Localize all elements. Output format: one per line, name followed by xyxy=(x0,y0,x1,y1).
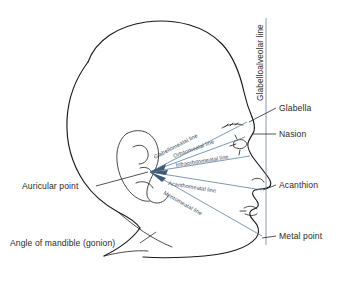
eye-crease xyxy=(230,144,236,146)
ear-concha xyxy=(133,145,148,164)
mentomeatal-line xyxy=(150,172,262,236)
leader-acanthion xyxy=(263,185,276,190)
label-metal-point: Metal point xyxy=(279,231,323,241)
head-outline-group xyxy=(67,21,271,258)
cranium-outline xyxy=(88,21,252,117)
label-nasion: Nasion xyxy=(279,129,306,139)
eye-lash-upper xyxy=(235,135,237,139)
occiput-neck-outline xyxy=(67,62,140,228)
leader-metal-point xyxy=(262,236,276,238)
label-glabella: Glabella xyxy=(279,103,311,113)
ear-lobe xyxy=(136,182,153,188)
lower-lip xyxy=(245,214,257,216)
leader-glabella xyxy=(249,108,276,122)
leader-lines-group xyxy=(96,108,276,243)
label-mentomeatal-line: Mentomeatal line xyxy=(163,190,204,217)
positioning-lines-group xyxy=(150,18,266,245)
label-infraorbitomeatal-line: Infraorbitomeatal line xyxy=(175,154,229,168)
label-acanthomeatal-line: Acanthomeatal line xyxy=(168,180,217,194)
leader-auricular-point xyxy=(96,172,148,186)
anatomical-diagram: Glabella Nasion Acanthion Metal point Au… xyxy=(0,0,346,289)
eye-lash-lower xyxy=(239,150,240,155)
label-acanthion: Acanthion xyxy=(279,180,318,190)
label-glabelloalveolar-line: Glabelloalveolar line xyxy=(255,24,265,101)
label-auricular-point: Auricular point xyxy=(22,181,79,191)
nostril xyxy=(252,178,264,182)
head-profile-figure: Glabella Nasion Acanthion Metal point Au… xyxy=(0,0,346,289)
label-angle-of-mandible: Angle of mandible (gonion) xyxy=(10,238,115,248)
jaw-underside xyxy=(104,251,148,256)
